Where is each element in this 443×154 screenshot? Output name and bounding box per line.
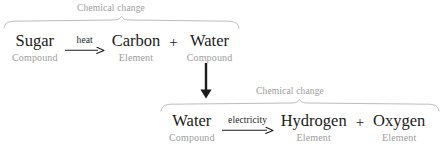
reaction-row-bottom: Water Compound electricity Hydrogen Elem… — [169, 113, 425, 143]
species-class-hydrogen: Element — [296, 133, 330, 143]
brace-caption-bottom: Chemical change — [256, 86, 324, 96]
species-name-sugar: Sugar — [16, 33, 55, 50]
species-name-oxygen: Oxygen — [373, 113, 425, 130]
species-class-water-bottom: Compound — [169, 133, 215, 143]
species-name-carbon: Carbon — [112, 33, 161, 50]
arrow-down-icon — [197, 63, 215, 101]
species-class-water-top: Compound — [187, 53, 233, 63]
brace-bottom — [161, 100, 439, 111]
species-oxygen: Oxygen Element — [373, 113, 425, 143]
arrow-right-icon — [222, 127, 274, 136]
species-name-water-top: Water — [190, 33, 229, 50]
reaction-arrow-electricity: electricity — [222, 113, 274, 136]
brace-top — [4, 17, 239, 28]
species-carbon: Carbon Element — [112, 33, 161, 63]
reaction-arrow-label-heat: heat — [77, 36, 93, 46]
species-class-carbon: Element — [119, 53, 153, 63]
species-water-bottom: Water Compound — [169, 113, 215, 143]
species-name-hydrogen: Hydrogen — [281, 113, 347, 130]
species-class-sugar: Compound — [12, 53, 58, 63]
chemical-change-diagram: Chemical change Chemical change Sugar Co… — [0, 0, 443, 154]
reaction-row-top: Sugar Compound heat Carbon Element + Wat… — [12, 33, 232, 63]
brace-caption-top: Chemical change — [77, 3, 145, 13]
species-name-water-bottom: Water — [172, 113, 211, 130]
species-hydrogen: Hydrogen Element — [281, 113, 347, 143]
arrow-right-icon — [65, 47, 105, 56]
reaction-arrow-heat: heat — [65, 33, 105, 56]
plus-sign-bottom: + — [356, 113, 364, 130]
plus-sign-top: + — [169, 33, 177, 50]
species-water-top: Water Compound — [187, 33, 233, 63]
species-sugar: Sugar Compound — [12, 33, 58, 63]
reaction-arrow-label-electricity: electricity — [228, 116, 267, 126]
species-class-oxygen: Element — [382, 133, 416, 143]
